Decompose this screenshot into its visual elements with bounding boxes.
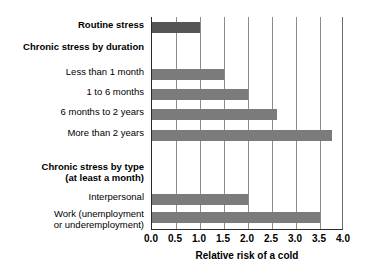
category-label-less-than-1-month: Less than 1 month (66, 66, 144, 77)
x-axis-title: Relative risk of a cold (151, 250, 343, 261)
gridline-2-0 (248, 17, 249, 229)
relative-risk-bar-chart: Routine stress Chronic stress by duratio… (0, 0, 370, 270)
xtick-4-0: 4.0 (323, 233, 363, 244)
category-label-column: Routine stress Chronic stress by duratio… (0, 0, 148, 270)
bar-interpersonal (152, 194, 248, 205)
gridline-3-0 (296, 17, 297, 229)
bar-routine-stress (152, 22, 200, 33)
category-header-chronic-by-duration: Chronic stress by duration (23, 41, 144, 52)
category-header-chronic-by-type: Chronic stress by type (at least a month… (42, 161, 144, 183)
bar-less-than-1-month (152, 69, 224, 80)
category-label-interpersonal: Interpersonal (89, 191, 144, 202)
plot-area (151, 17, 343, 230)
category-label-1-to-6-months: 1 to 6 months (86, 86, 144, 97)
gridline-2-5 (272, 17, 273, 229)
bar-more-than-2-years (152, 130, 332, 141)
category-label-6-months-to-2-years: 6 months to 2 years (61, 106, 144, 117)
bar-work-unemployment (152, 212, 320, 223)
bar-1-to-6-months (152, 89, 248, 100)
bar-6-months-to-2-years (152, 109, 277, 120)
category-label-routine-stress: Routine stress (78, 19, 144, 30)
gridline-3-5 (320, 17, 321, 229)
category-label-more-than-2-years: More than 2 years (67, 127, 144, 138)
category-label-work-unemployment: Work (unemployment or underemployment) (54, 208, 144, 230)
